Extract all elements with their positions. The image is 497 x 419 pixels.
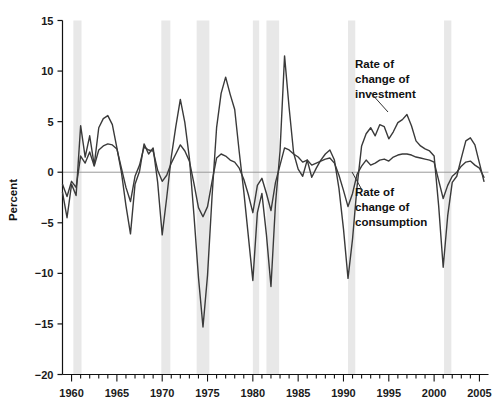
y-tick-label: 0 bbox=[47, 166, 53, 178]
recession-band bbox=[161, 21, 170, 375]
annotation-line: investment bbox=[355, 88, 416, 100]
annotation-line: Rate of bbox=[355, 58, 394, 70]
annotation-line: change of bbox=[355, 201, 409, 213]
y-tick-label: 15 bbox=[41, 15, 53, 27]
annotation-line: consumption bbox=[355, 216, 427, 228]
x-tick-label: 2000 bbox=[422, 387, 446, 399]
recession-band bbox=[73, 21, 81, 375]
chart-container: 1960196519701975198019851990199520002005… bbox=[0, 0, 497, 419]
annotation-line: change of bbox=[355, 73, 409, 85]
line-chart: 1960196519701975198019851990199520002005… bbox=[0, 0, 497, 419]
y-tick-label: −5 bbox=[41, 217, 54, 229]
y-axis-title-text: Percent bbox=[7, 179, 19, 221]
y-tick-label: 10 bbox=[41, 65, 53, 77]
x-tick-label: 1960 bbox=[59, 387, 83, 399]
x-tick-label: 1965 bbox=[105, 387, 129, 399]
x-tick-label: 1990 bbox=[331, 387, 355, 399]
y-axis-title: Percent bbox=[7, 179, 19, 221]
x-tick-label: 1975 bbox=[195, 387, 219, 399]
y-tick-label: −10 bbox=[35, 267, 54, 279]
x-tick-label: 1980 bbox=[241, 387, 265, 399]
x-tick-label: 1985 bbox=[286, 387, 310, 399]
x-tick-label: 1995 bbox=[377, 387, 401, 399]
y-tick-label: −20 bbox=[35, 369, 54, 381]
y-tick-label: −15 bbox=[35, 318, 54, 330]
y-tick-label: 5 bbox=[47, 116, 53, 128]
x-tick-label: 2005 bbox=[467, 387, 491, 399]
x-tick-label: 1970 bbox=[150, 387, 174, 399]
